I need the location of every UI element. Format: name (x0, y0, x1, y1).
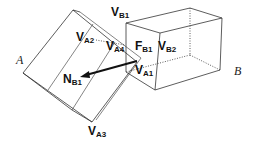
label-vb1: VB1 (111, 6, 129, 22)
label-nb1: NB1 (63, 73, 82, 89)
object-label-b: B (234, 64, 241, 79)
collision-diagram (0, 0, 255, 152)
label-va2: VA2 (76, 31, 94, 47)
object-label-a: A (16, 53, 23, 68)
label-va3: VA3 (88, 125, 106, 141)
label-fb1: FB1 (135, 40, 153, 56)
box-a (23, 10, 141, 122)
label-va1: VA1 (135, 64, 153, 80)
label-vb2: VB2 (158, 40, 176, 56)
label-va4: VA4 (106, 40, 124, 56)
